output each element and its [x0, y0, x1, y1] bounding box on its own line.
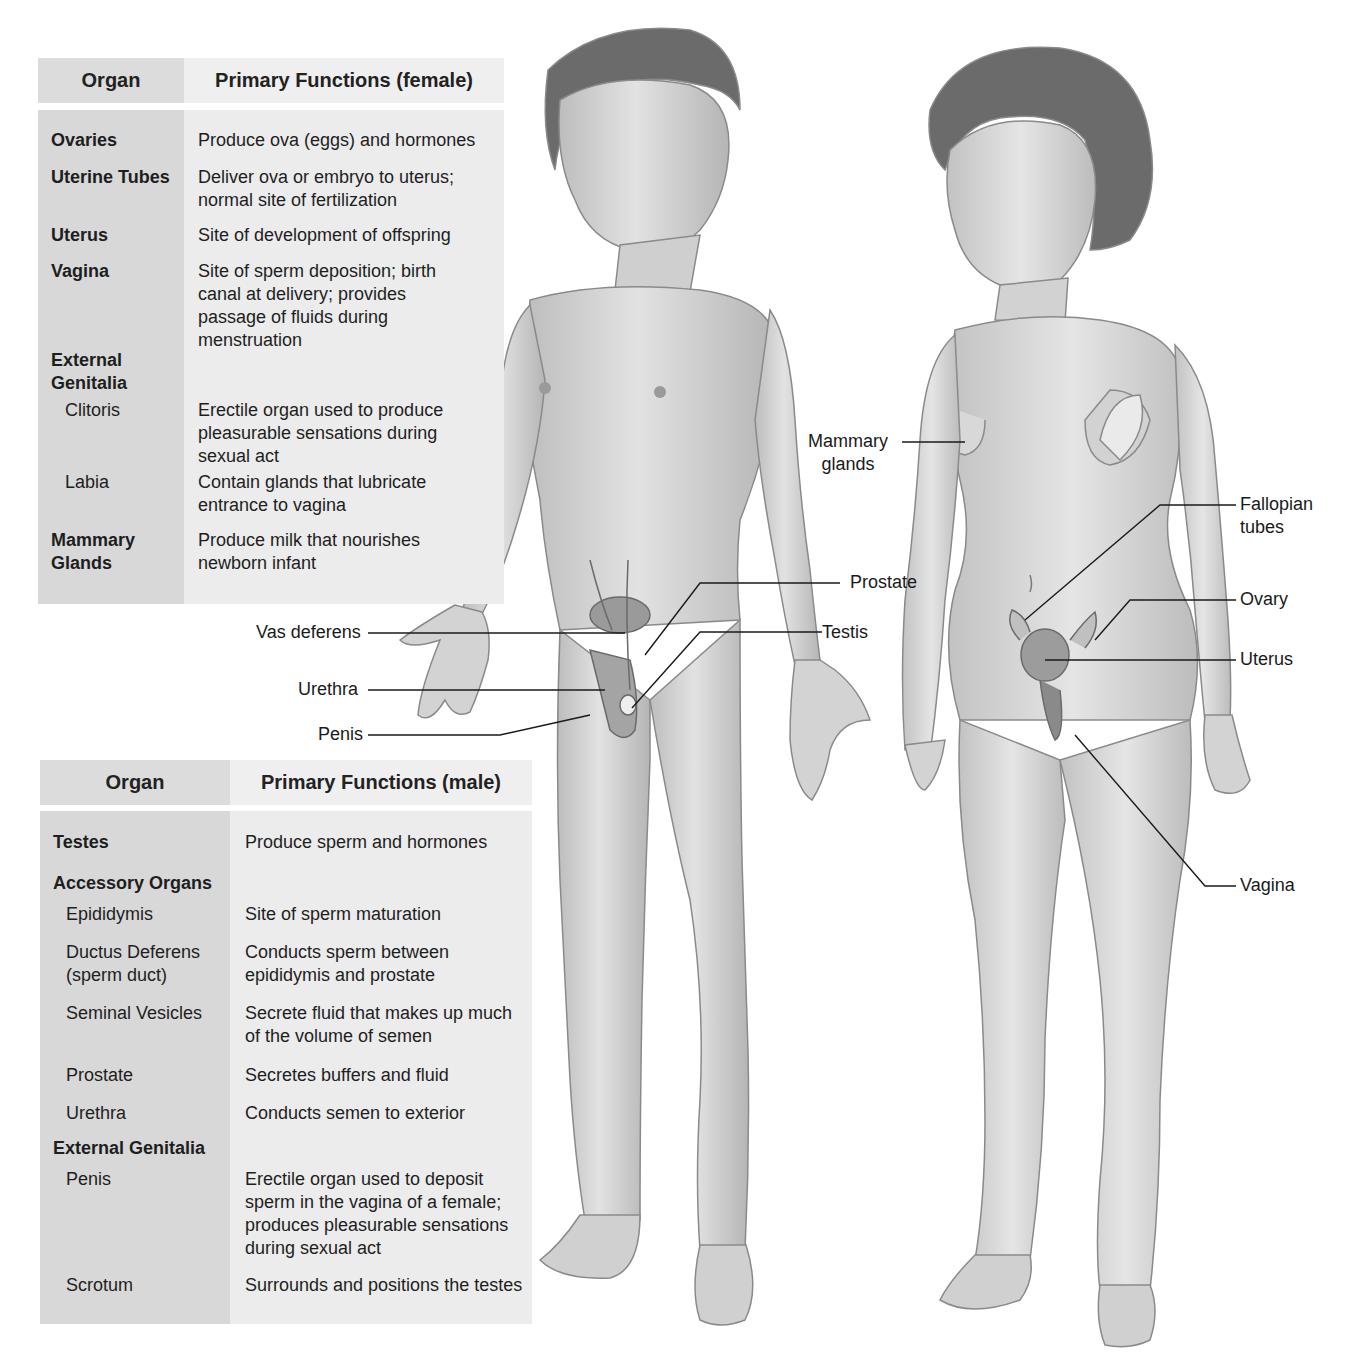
male-foot-left — [540, 1215, 640, 1278]
leader-ovary — [1095, 600, 1236, 640]
label-vas-deferens: Vas deferens — [256, 621, 361, 644]
leader-vagina — [1075, 735, 1236, 886]
function-cell: Produce milk that nourishes newborn infa… — [198, 529, 420, 575]
function-cell: Produce ova (eggs) and hormones — [198, 129, 475, 152]
female-hair — [929, 47, 1153, 250]
organ-cell: Epididymis — [66, 903, 153, 926]
male-leg-left — [558, 630, 651, 1220]
label-fallopian-tubes: Fallopian tubes — [1240, 493, 1313, 539]
leader-testis — [632, 632, 822, 708]
organ-cell: Vagina — [51, 260, 109, 283]
female-arm-left — [903, 335, 961, 755]
function-cell: Site of sperm deposition; birth canal at… — [198, 260, 436, 352]
label-uterus: Uterus — [1240, 648, 1293, 671]
function-cell: Contain glands that lubricate entrance t… — [198, 471, 426, 517]
female-torso — [949, 317, 1198, 720]
female-breast-left — [930, 400, 985, 455]
male-hair — [545, 28, 740, 170]
table-header: Organ Primary Functions (male) — [40, 760, 532, 805]
female-figure — [903, 47, 1251, 1346]
column-header-organ: Organ — [38, 58, 184, 103]
organ-cell: Urethra — [66, 1102, 126, 1125]
function-cell: Secrete fluid that makes up much of the … — [245, 1002, 512, 1048]
female-leg-left — [959, 720, 1065, 1260]
organ-cell: Prostate — [66, 1064, 133, 1087]
organ-group-cell: External Genitalia — [53, 1137, 205, 1160]
female-leg-right — [1060, 720, 1191, 1290]
female-functions-table: Organ Primary Functions (female) Ovaries… — [38, 58, 504, 604]
organ-cell: Uterus — [51, 224, 108, 247]
leader-fallopian-tubes — [1025, 505, 1236, 620]
function-cell: Produce sperm and hormones — [245, 831, 487, 854]
male-hand-right — [790, 660, 870, 800]
organ-cell: Penis — [66, 1168, 111, 1191]
female-hand-left — [905, 740, 945, 790]
function-cell: Site of sperm maturation — [245, 903, 441, 926]
female-hand-right — [1204, 715, 1250, 793]
mammary-gland-cutaway — [1100, 395, 1143, 460]
label-penis: Penis — [318, 723, 363, 746]
function-cell: Erectile organ used to produce pleasurab… — [198, 399, 443, 468]
male-arm-right — [755, 310, 820, 665]
label-testis: Testis — [822, 621, 868, 644]
organ-cell: Ductus Deferens (sperm duct) — [66, 941, 200, 987]
female-foot-right — [1098, 1285, 1155, 1347]
leader-prostate — [645, 583, 840, 655]
female-head — [947, 121, 1096, 289]
organ-cell: Mammary Glands — [51, 529, 135, 575]
organ-cell: Clitoris — [65, 399, 120, 422]
male-foot-right — [695, 1245, 753, 1325]
label-ovary: Ovary — [1240, 588, 1288, 611]
label-urethra: Urethra — [298, 678, 358, 701]
function-cell: Site of development of offspring — [198, 224, 451, 247]
female-foot-left — [940, 1255, 1031, 1309]
label-prostate: Prostate — [850, 571, 917, 594]
female-reproductive-organs — [1010, 610, 1096, 740]
male-functions-table: Organ Primary Functions (male) Testes Pr… — [40, 760, 532, 1324]
column-header-function: Primary Functions (male) — [230, 760, 532, 805]
organ-group-cell: Accessory Organs — [53, 872, 212, 895]
organ-cell: Uterine Tubes — [51, 166, 170, 189]
organ-cell: Ovaries — [51, 129, 117, 152]
column-header-function: Primary Functions (female) — [184, 58, 504, 103]
label-vagina: Vagina — [1240, 874, 1295, 897]
organ-group-cell: External Genitalia — [51, 349, 127, 395]
organ-cell: Seminal Vesicles — [66, 1002, 202, 1025]
function-cell: Surrounds and positions the testes — [245, 1274, 522, 1297]
male-hand-left — [400, 605, 489, 718]
function-cell: Conducts sperm between epididymis and pr… — [245, 941, 449, 987]
organ-cell: Scrotum — [66, 1274, 133, 1297]
male-torso — [525, 287, 775, 630]
male-head — [559, 80, 729, 253]
male-leg-right — [650, 620, 749, 1250]
label-mammary-glands: Mammary glands — [808, 430, 888, 476]
function-cell: Secretes buffers and fluid — [245, 1064, 449, 1087]
organ-cell: Testes — [53, 831, 109, 854]
female-breast-right — [1085, 390, 1150, 465]
organ-cell: Labia — [65, 471, 109, 494]
leader-penis — [368, 715, 590, 735]
function-cell: Deliver ova or embryo to uterus; normal … — [198, 166, 454, 212]
male-reproductive-organs — [590, 560, 650, 738]
table-header: Organ Primary Functions (female) — [38, 58, 504, 103]
function-cell: Erectile organ used to deposit sperm in … — [245, 1168, 508, 1260]
female-arm-right — [1175, 345, 1231, 722]
column-header-organ: Organ — [40, 760, 230, 805]
function-cell: Conducts semen to exterior — [245, 1102, 465, 1125]
